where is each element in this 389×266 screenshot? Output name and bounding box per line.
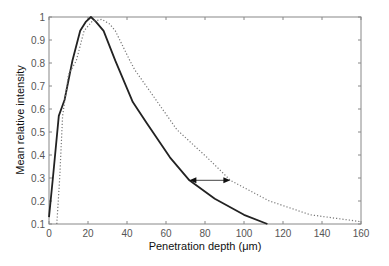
x-tick-label: 20 xyxy=(82,228,94,239)
x-tick-label: 40 xyxy=(121,228,133,239)
y-tick-label: 0.2 xyxy=(31,196,45,207)
y-tick-label: 0.4 xyxy=(31,150,45,161)
y-tick-label: 1 xyxy=(39,12,45,23)
x-tick-label: 80 xyxy=(199,228,211,239)
x-axis-label: Penetration depth (μm) xyxy=(149,240,262,252)
y-tick-label: 0.6 xyxy=(31,104,45,115)
x-tick-label: 160 xyxy=(353,228,370,239)
y-tick-label: 0.5 xyxy=(31,127,45,138)
x-tick-label: 140 xyxy=(314,228,331,239)
x-tick-label: 120 xyxy=(275,228,292,239)
y-axis-label: Mean relative intensity xyxy=(14,65,26,175)
x-tick-label: 60 xyxy=(160,228,172,239)
plot-area xyxy=(49,17,361,224)
y-tick-label: 0.3 xyxy=(31,173,45,184)
line-chart: 020406080100120140160 0.10.20.30.40.50.6… xyxy=(0,0,389,266)
y-tick-label: 0.8 xyxy=(31,58,45,69)
x-tick-label: 0 xyxy=(46,228,52,239)
x-tick-label: 100 xyxy=(236,228,253,239)
y-tick-label: 0.1 xyxy=(31,219,45,230)
y-tick-label: 0.9 xyxy=(31,35,45,46)
y-tick-label: 0.7 xyxy=(31,81,45,92)
